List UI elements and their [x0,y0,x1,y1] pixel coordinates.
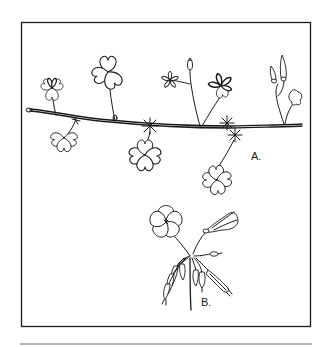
open-flower [148,206,184,240]
leaf-upper-4 [202,73,232,126]
node-lower-2 [129,118,162,171]
stalk-upper-3 [161,58,200,126]
label-a: A. [251,150,261,162]
creeping-stem-a [26,108,302,128]
flower-cluster-b [148,206,238,311]
label-b: B. [201,296,211,308]
leaf-lower-1 [50,117,80,152]
leaf-upper-2 [90,56,124,121]
buds-upper-5 [270,55,301,124]
botanical-illustration [0,0,326,347]
figure-frame [22,23,311,327]
leaf-upper-1 [40,78,65,115]
bottom-rule [20,343,312,345]
trumpet-flower [203,212,238,233]
